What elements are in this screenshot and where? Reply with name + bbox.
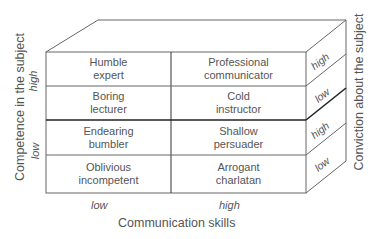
z-axis-title: Conviction about the subject [352,7,366,177]
x-axis-title: Communication skills [118,216,235,230]
x-tick-low: low [91,199,108,211]
cell-arrogant-charlatan: Arrogant charlatan [171,155,306,193]
y-axis-title: Competence in the subject [13,27,27,187]
cell-oblivious-incompetent: Oblivious incompetent [46,155,171,193]
x-tick-high: high [219,199,240,211]
y-tick-low: low [29,143,41,160]
y-tick-high: high [27,71,39,92]
cell-boring-lecturer: Boring lecturer [46,86,171,120]
cell-shallow-persuader: Shallow persuader [171,120,306,155]
cell-professional-communicator: Professional communicator [171,52,306,86]
cell-humble-expert: Humble expert [46,52,171,86]
cell-cold-instructor: Cold instructor [171,86,306,120]
cell-endearing-bumbler: Endearing bumbler [46,120,171,155]
